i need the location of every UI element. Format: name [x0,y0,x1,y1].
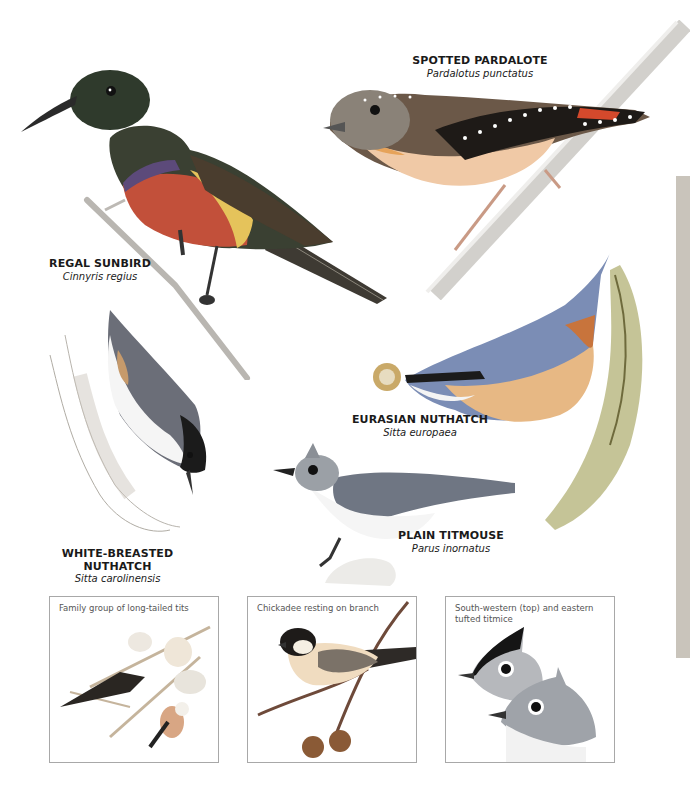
species-label-white-breasted-nuthatch: WHITE-BREASTED NUTHATCH Sitta carolinens… [55,548,180,585]
scientific-name: Sitta carolinensis [55,573,180,585]
inset-chickadee: Chickadee resting on branch [247,596,417,763]
species-label-spotted-pardalote: SPOTTED PARDALOTE Pardalotus punctatus [405,55,555,79]
white-breasted-nuthatch-illustration [40,295,220,535]
inset-caption: Chickadee resting on branch [257,603,408,614]
scientific-name: Cinnyris regius [40,271,160,283]
common-name-line2: NUTHATCH [55,561,180,574]
chickadee-illustration [248,597,417,763]
scientific-name: Pardalotus punctatus [405,68,555,80]
inset-long-tailed-tits: Family group of long-tailed tits [49,596,219,763]
common-name: PLAIN TITMOUSE [395,530,507,543]
plain-titmouse-illustration [265,438,525,588]
chapter-tab [676,176,690,658]
common-name: SPOTTED PARDALOTE [405,55,555,68]
scientific-name: Parus inornatus [395,543,507,555]
scientific-name: Sitta europaea [350,427,490,439]
inset-caption: South-western (top) and eastern tufted t… [455,603,606,626]
common-name: REGAL SUNBIRD [40,258,160,271]
inset-tufted-titmice: South-western (top) and eastern tufted t… [445,596,615,763]
common-name-line1: WHITE-BREASTED [55,548,180,561]
species-label-plain-titmouse: PLAIN TITMOUSE Parus inornatus [395,530,507,554]
common-name: EURASIAN NUTHATCH [350,414,490,427]
inset-caption: Family group of long-tailed tits [59,603,210,614]
species-label-regal-sunbird: REGAL SUNBIRD Cinnyris regius [40,258,160,282]
long-tailed-tits-illustration [50,597,219,763]
species-label-eurasian-nuthatch: EURASIAN NUTHATCH Sitta europaea [350,414,490,438]
